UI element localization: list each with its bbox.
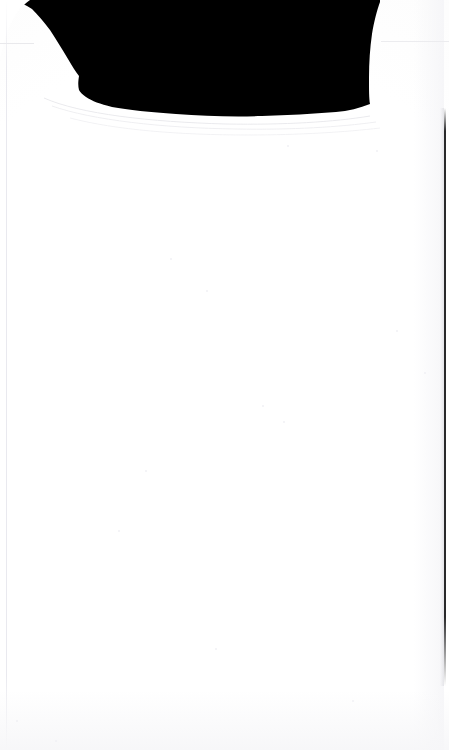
scanned-page: [0, 0, 449, 750]
page-background: [0, 0, 449, 750]
